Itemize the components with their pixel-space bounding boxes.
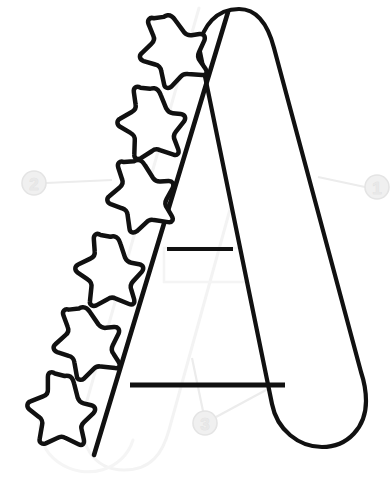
callout-marker-2[interactable]: 2 xyxy=(22,171,46,195)
letter-a-illustration: 1 2 3 xyxy=(0,0,392,481)
callout-3-label: 3 xyxy=(200,415,209,434)
star-shape xyxy=(19,368,101,454)
callout-2-leader-line xyxy=(46,180,112,183)
callout-1-label: 1 xyxy=(372,179,381,198)
star-shape xyxy=(114,85,188,164)
callout-marker-1[interactable]: 1 xyxy=(365,175,389,199)
callout-1-leader-line xyxy=(318,177,365,187)
worksheet-canvas: 1 2 3 xyxy=(0,0,392,481)
star-shape xyxy=(105,158,177,234)
callout-2-label: 2 xyxy=(29,175,38,194)
letter-a-group xyxy=(94,8,366,477)
star-shape xyxy=(69,231,147,314)
callout-marker-3[interactable]: 3 xyxy=(193,411,217,435)
